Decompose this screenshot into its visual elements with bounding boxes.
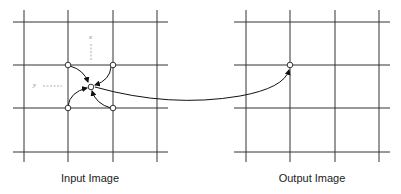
input-nodes: [65, 62, 116, 111]
input-image-label: Input Image: [61, 172, 119, 184]
output-image-label: Output Image: [279, 172, 346, 184]
arrow-from-top-right: [95, 67, 111, 85]
output-grid: [234, 10, 390, 162]
x-axis-label: x: [89, 33, 92, 41]
arrow-from-bottom-left: [68, 88, 87, 106]
output-target-node: [287, 62, 293, 68]
neighbor-node-bottom-right: [110, 105, 116, 111]
mapping-arrow: [95, 70, 289, 100]
neighbor-node-bottom-left: [65, 105, 71, 111]
diagram-canvas: [0, 0, 401, 194]
y-axis-label: y: [33, 81, 36, 89]
sample-point-node: [88, 84, 94, 90]
neighbor-node-top-right: [110, 62, 116, 68]
arrow-from-top-left: [70, 66, 88, 82]
neighbor-node-top-left: [65, 62, 71, 68]
interpolation-arrows: [68, 66, 289, 108]
arrow-from-bottom-right: [92, 91, 111, 108]
